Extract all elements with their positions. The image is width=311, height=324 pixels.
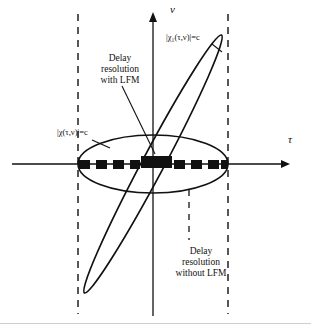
nu-axis-label: ν (170, 3, 175, 15)
tau-axis-label: τ (288, 133, 292, 145)
annotation-delay-with-lfm-line-3: with LFM (88, 75, 152, 86)
leader-line-with-lfm (122, 86, 155, 154)
diagram-canvas (0, 0, 311, 324)
annotation-delay-with-lfm-line-2: resolution (88, 64, 152, 75)
annotation-delay-without-lfm-line-2: resolution (157, 257, 245, 268)
contour-label-chi1: |χ₁(τ,ν)|=c (166, 33, 200, 43)
annotation-delay-with-lfm-line-1: Delay (88, 53, 152, 64)
annotation-delay-without-lfm-line-1: Delay (157, 246, 245, 257)
nu-axis-arrowhead (149, 12, 157, 22)
contour-label-chi: |χ(τ,ν)|=c (57, 128, 88, 138)
tau-axis-arrowhead (281, 160, 290, 168)
annotation-delay-without-lfm-line-3: without LFM (157, 268, 245, 279)
annotation-delay-without-lfm: Delay resolution without LFM (157, 246, 245, 279)
annotation-delay-with-lfm: Delay resolution with LFM (88, 53, 152, 86)
lfm-delay-resolution-block (141, 156, 172, 168)
ambiguity-function-figure: Delay resolution with LFM Delay resoluti… (0, 0, 311, 324)
